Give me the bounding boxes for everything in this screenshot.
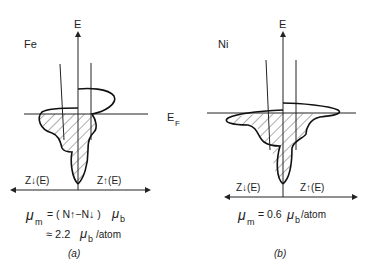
mu-symbol-a: μ — [25, 207, 34, 223]
mu-b-sub2-a: b — [88, 234, 93, 244]
mu-sub-a: m — [35, 217, 43, 227]
spin-down-label-a: Z↓(E) — [25, 175, 49, 186]
moment-eq-b: = 0.6 — [258, 208, 282, 220]
moment-value-prefix-a: ≈ 2.2 — [46, 228, 70, 240]
mu-b-symbol-a: μ — [111, 206, 119, 221]
panel-b-ni: Ni E Z↓(E) Z↑(E) μ m = 0.6 μ b /atom (b) — [207, 18, 356, 259]
fermi-sub: F — [175, 119, 180, 128]
mu-b-symbol2-a: μ — [79, 226, 87, 241]
fermi-e: E — [167, 111, 174, 123]
moment-unit-a: /atom — [96, 229, 121, 240]
mu-symbol-b: μ — [237, 207, 246, 223]
spin-up-label-a: Z↑(E) — [97, 175, 121, 186]
mu-b-symbol-b: μ — [286, 207, 294, 222]
occupied-states-hatch-b — [227, 113, 320, 184]
energy-axis-label-a: E — [74, 18, 81, 30]
spin-up-label-b: Z↑(E) — [300, 182, 324, 193]
fermi-level-label: E F — [167, 111, 180, 128]
moment-value-a: ≈ 2.2 μ b /atom — [46, 226, 121, 244]
element-label-ni: Ni — [218, 38, 228, 50]
element-label-fe: Fe — [24, 38, 37, 50]
moment-eq1-a: = ( N↑−N↓ ) — [47, 208, 101, 220]
mu-sub-b: m — [247, 217, 255, 227]
caption-a: (a) — [68, 248, 80, 259]
energy-axis-label-b: E — [279, 18, 286, 30]
mu-b-sub-a: b — [120, 214, 125, 224]
spin-polarized-dos-diagram: Fe E Z↓(E) Z↑(E) μ m = ( N↑−N↓ ) μ b ≈ — [0, 0, 367, 274]
mu-b-sub-b: b — [295, 215, 300, 225]
moment-formula-a: μ m = ( N↑−N↓ ) μ b — [25, 206, 125, 227]
panel-a-fe: Fe E Z↓(E) Z↑(E) μ m = ( N↑−N↓ ) μ b ≈ — [13, 18, 148, 259]
moment-unit-b: /atom — [301, 209, 326, 220]
moment-formula-b: μ m = 0.6 μ b /atom — [237, 207, 326, 227]
spin-down-label-b: Z↓(E) — [236, 182, 260, 193]
caption-b: (b) — [274, 248, 286, 259]
